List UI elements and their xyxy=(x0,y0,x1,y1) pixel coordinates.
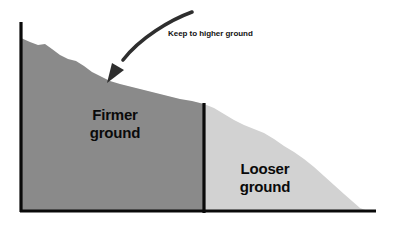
keep-to-higher-ground-annotation: Keep to higher ground xyxy=(168,29,288,39)
firmer-ground-label: Firmer ground xyxy=(62,106,168,141)
annotation-arrow-icon xyxy=(107,12,192,83)
slope-diagram: Firmer ground Looser ground Keep to high… xyxy=(0,0,396,226)
looser-ground-label: Looser ground xyxy=(212,160,318,195)
